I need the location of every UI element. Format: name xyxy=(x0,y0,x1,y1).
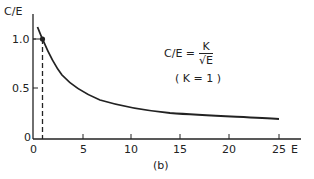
x-tick-label: 15 xyxy=(173,143,187,156)
y-axis-label: C/E xyxy=(4,5,22,18)
x-tick-label: 0 xyxy=(30,143,37,156)
chart-plot xyxy=(0,0,314,179)
x-tick-label: 20 xyxy=(222,143,236,156)
formula-lhs: C/E = xyxy=(164,47,195,60)
marked-point xyxy=(40,36,45,41)
formula-denominator: √E xyxy=(199,54,213,67)
constant-annotation: ( K = 1 ) xyxy=(175,72,221,85)
x-tick-label: 10 xyxy=(124,143,138,156)
curve-c-over-e xyxy=(38,27,280,119)
formula-fraction: K √E xyxy=(199,40,213,67)
formula-numerator: K xyxy=(199,40,212,54)
sqrt-icon: √ xyxy=(199,54,206,67)
x-tick-label: 5 xyxy=(80,143,87,156)
figure-caption: (b) xyxy=(153,159,169,172)
x-tick-label: 25 xyxy=(272,143,286,156)
y-tick-label: 1.0 xyxy=(12,33,30,46)
x-axis-label: E xyxy=(291,143,298,156)
y-tick-label: 0.5 xyxy=(12,82,30,95)
formula-annotation: C/E = K √E xyxy=(164,40,213,67)
